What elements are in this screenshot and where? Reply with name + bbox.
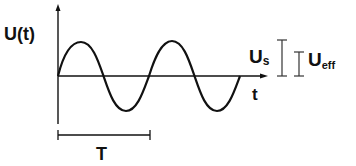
effective-bracket xyxy=(294,52,304,76)
peak-voltage-label: Us xyxy=(249,46,270,68)
period-label: T xyxy=(96,144,107,164)
period-bracket xyxy=(58,130,150,140)
sine-wave-diagram: U(t) t T Us Ueff xyxy=(0,0,356,166)
y-axis-label: U(t) xyxy=(4,24,35,44)
y-axis-arrow-icon xyxy=(56,4,61,11)
x-axis-label: t xyxy=(252,85,258,104)
peak-bracket xyxy=(277,40,287,76)
x-axis-arrow-icon xyxy=(260,74,268,79)
effective-voltage-label: Ueff xyxy=(308,49,336,71)
